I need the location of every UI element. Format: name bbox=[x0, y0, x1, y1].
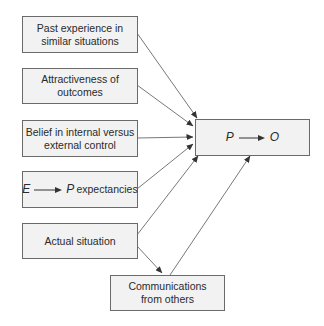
box-attractiveness: Attractiveness of outcomes bbox=[22, 68, 138, 104]
edge-belief-to-target bbox=[137, 137, 193, 138]
box-label: Attractiveness of outcomes bbox=[35, 73, 125, 99]
box-label: Belief in internal versus external contr… bbox=[25, 126, 135, 152]
box-communications: Communications from others bbox=[110, 275, 225, 311]
label-o: O bbox=[270, 131, 279, 144]
box-ep-expectancies: E P expectancies bbox=[22, 171, 138, 208]
box-label: Communications from others bbox=[123, 280, 213, 306]
box-label: Past experience in similar situations bbox=[35, 22, 125, 48]
box-belief-control: Belief in internal versus external contr… bbox=[22, 120, 138, 157]
box-past-experience: Past experience in similar situations bbox=[22, 16, 138, 53]
box-p-to-o: P O bbox=[195, 119, 310, 156]
edge-attract-to-target bbox=[137, 85, 193, 126]
edge-actual-to-comms bbox=[137, 246, 162, 273]
label-e: E bbox=[22, 183, 30, 196]
box-actual-situation: Actual situation bbox=[22, 223, 138, 259]
box-label: Actual situation bbox=[44, 235, 115, 248]
right-arrow-icon bbox=[33, 186, 63, 194]
label-p: P bbox=[226, 131, 234, 144]
edge-actual-to-target bbox=[137, 156, 198, 235]
edge-ep-to-target bbox=[137, 144, 193, 189]
diagram-canvas: Past experience in similar situations At… bbox=[0, 0, 324, 326]
box-label: P O bbox=[226, 131, 279, 144]
label-suffix: expectancies bbox=[76, 183, 137, 196]
label-p: P bbox=[66, 183, 74, 196]
edge-comms-to-target bbox=[170, 156, 250, 275]
right-arrow-icon bbox=[238, 134, 266, 142]
box-label: E P expectancies bbox=[22, 183, 137, 196]
edge-past-to-target bbox=[137, 33, 197, 118]
